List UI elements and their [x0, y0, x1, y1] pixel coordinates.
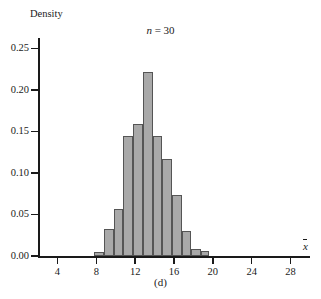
y-axis-tick-label: 0.05	[0, 209, 29, 219]
y-axis-tick-label: 0.20	[0, 85, 29, 95]
histogram-bar	[162, 159, 172, 256]
histogram-bar	[201, 251, 209, 256]
figure-caption: (d)	[0, 276, 321, 288]
x-axis-tick	[96, 257, 97, 264]
x-axis-tick	[134, 257, 135, 264]
x-axis-title: x	[303, 240, 308, 252]
y-axis-tick-label: 0.25	[0, 43, 29, 53]
x-axis-tick	[57, 257, 58, 264]
x-axis-tick	[251, 257, 252, 264]
x-axis-tick	[290, 257, 291, 264]
histogram-bar	[114, 209, 124, 256]
histogram-bar	[153, 136, 163, 256]
histogram-figure: Density n = 30 0.000.050.100.150.200.25 …	[0, 0, 321, 299]
histogram-bars	[38, 40, 310, 256]
histogram-bar	[133, 124, 143, 256]
chart-title: n = 30	[0, 24, 321, 36]
histogram-bar	[191, 249, 201, 256]
y-axis-tick-label: 0.15	[0, 126, 29, 136]
x-bar-symbol: x	[303, 240, 308, 252]
histogram-bar	[94, 252, 104, 256]
y-axis-tick-label: 0.00	[0, 251, 29, 261]
histogram-bar	[123, 136, 133, 256]
y-axis-title: Density	[30, 8, 63, 20]
histogram-bar	[182, 231, 192, 256]
x-axis-tick	[173, 257, 174, 264]
histogram-bar	[143, 72, 153, 256]
x-axis-tick	[212, 257, 213, 264]
histogram-bar	[104, 229, 114, 256]
chart-title-value: = 30	[152, 24, 175, 36]
y-axis-tick-label: 0.10	[0, 168, 29, 178]
histogram-bar	[172, 195, 182, 256]
